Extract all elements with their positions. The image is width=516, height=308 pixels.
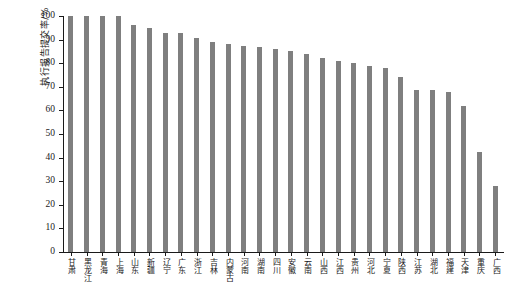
x-tick-label: 上海	[114, 258, 122, 274]
bar	[163, 33, 168, 252]
x-tick-label: 黑龙江	[83, 258, 91, 282]
x-tick-mark	[432, 252, 433, 256]
x-tick-mark	[259, 252, 260, 256]
bar	[116, 16, 121, 252]
x-tick-label: 广西	[491, 258, 499, 274]
y-tick-label: 70	[46, 82, 56, 92]
bar	[398, 77, 403, 252]
x-tick-mark	[212, 252, 213, 256]
x-tick-mark	[448, 252, 449, 256]
x-tick-label: 内蒙古	[224, 258, 232, 282]
bar	[147, 28, 152, 252]
x-tick-mark	[479, 252, 480, 256]
x-tick-mark	[118, 252, 119, 256]
x-tick-label: 江苏	[413, 258, 421, 274]
x-tick-label: 湖南	[255, 258, 263, 274]
y-tick-label: 90	[46, 35, 56, 45]
y-tick-label: 40	[46, 153, 56, 163]
x-tick-mark	[338, 252, 339, 256]
x-tick-mark	[71, 252, 72, 256]
x-tick-mark	[165, 252, 166, 256]
bar	[414, 90, 419, 252]
x-tick-mark	[275, 252, 276, 256]
x-tick-label: 湖北	[428, 258, 436, 274]
y-tick-label: 60	[46, 106, 56, 116]
x-tick-label: 甘肃	[67, 258, 75, 274]
bar	[273, 49, 278, 252]
bar-series	[63, 16, 503, 252]
bar	[178, 33, 183, 252]
x-tick-label: 四川	[271, 258, 279, 274]
x-tick-mark	[87, 252, 88, 256]
x-tick-label: 贵州	[350, 258, 358, 274]
x-tick-mark	[464, 252, 465, 256]
y-tick-label: 20	[46, 200, 56, 210]
bar	[194, 38, 199, 252]
y-tick-label: 0	[50, 247, 55, 257]
x-tick-label: 安徽	[287, 258, 295, 274]
x-tick-label: 河北	[365, 258, 373, 274]
y-tick-label: 30	[46, 176, 56, 186]
bar	[430, 90, 435, 252]
x-tick-mark	[149, 252, 150, 256]
x-tick-label: 江西	[334, 258, 342, 274]
bar	[100, 16, 105, 252]
x-tick-label: 浙江	[193, 258, 201, 274]
bar	[257, 47, 262, 252]
x-tick-label: 云南	[303, 258, 311, 274]
x-tick-label: 河南	[240, 258, 248, 274]
y-tick-label: 100	[41, 11, 55, 21]
x-tick-mark	[385, 252, 386, 256]
x-tick-mark	[401, 252, 402, 256]
x-tick-mark	[181, 252, 182, 256]
bar	[461, 106, 466, 252]
bar-chart-figure: 执行报告提交率/% 0102030405060708090100 甘肃黑龙江青海…	[0, 0, 516, 308]
y-tick-label: 10	[46, 224, 56, 234]
x-tick-mark	[369, 252, 370, 256]
x-tick-label: 广东	[177, 258, 185, 274]
bar	[241, 46, 246, 253]
x-tick-mark	[134, 252, 135, 256]
x-tick-mark	[495, 252, 496, 256]
bar	[304, 54, 309, 252]
bar	[336, 61, 341, 252]
x-tick-mark	[197, 252, 198, 256]
x-tick-label: 辽宁	[161, 258, 169, 274]
x-tick-label: 山东	[130, 258, 138, 274]
bar	[383, 68, 388, 252]
bar	[210, 42, 215, 252]
bar	[493, 186, 498, 252]
bar	[131, 25, 136, 252]
bar	[446, 92, 451, 252]
bar	[288, 51, 293, 252]
x-tick-mark	[244, 252, 245, 256]
bar	[84, 16, 89, 252]
bar	[477, 152, 482, 252]
plot-area	[63, 16, 503, 252]
x-tick-mark	[228, 252, 229, 256]
x-tick-mark	[354, 252, 355, 256]
x-tick-mark	[417, 252, 418, 256]
x-tick-mark	[322, 252, 323, 256]
x-tick-label: 陕西	[397, 258, 405, 274]
x-tick-label: 山西	[318, 258, 326, 274]
y-tick-label: 50	[46, 129, 56, 139]
x-tick-label: 吉林	[208, 258, 216, 274]
x-tick-mark	[291, 252, 292, 256]
bar	[367, 66, 372, 252]
y-tick-mark	[59, 252, 63, 253]
x-axis-line	[63, 252, 504, 253]
bar	[226, 44, 231, 252]
x-tick-mark	[102, 252, 103, 256]
bar	[351, 63, 356, 252]
y-tick-label: 80	[46, 58, 56, 68]
x-tick-label: 青海	[98, 258, 106, 274]
x-tick-label: 新疆	[145, 258, 153, 274]
x-tick-mark	[307, 252, 308, 256]
x-tick-label: 宁夏	[381, 258, 389, 274]
bar	[68, 16, 73, 252]
x-tick-label: 福建	[444, 258, 452, 274]
x-tick-label: 重庆	[475, 258, 483, 274]
x-tick-label: 天津	[460, 258, 468, 274]
bar	[320, 58, 325, 252]
